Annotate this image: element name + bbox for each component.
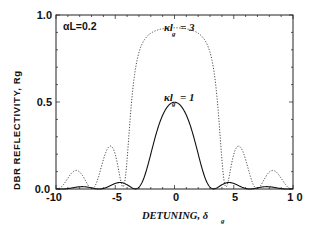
x-tick-0: 0 <box>173 191 179 203</box>
x-tick-10: 1 0 <box>287 191 302 203</box>
series-label-kappa-3-eq: = 3 <box>180 21 195 33</box>
x-axis-label: DETUNING, δ <box>141 210 209 221</box>
y-tick-0.5: 0.5 <box>37 96 52 108</box>
y-tick-1.0: 1.0 <box>37 9 52 21</box>
x-tick-5: 5 <box>232 191 238 203</box>
x-tick--5: -5 <box>112 191 122 203</box>
curve-kappa-1 <box>56 102 293 189</box>
series-label-kappa-1-eq: = 1 <box>180 91 195 103</box>
series-label-kappa-3-sub: g <box>171 30 176 38</box>
x-axis-label-subscript: g <box>220 217 225 225</box>
x-tick--10: -10 <box>46 191 62 203</box>
y-axis-label: DBR REFLECTIVITY, Rg <box>11 70 22 190</box>
curve-kappa-3 <box>56 28 293 189</box>
alpha-annotation: αL=0.2 <box>63 20 97 32</box>
reflectivity-chart: 1.0 0.5 0.0 -10 -5 0 5 1 0 DBR REFLECTIV… <box>0 0 315 230</box>
series-label-kappa-1-sub: g <box>171 100 176 108</box>
